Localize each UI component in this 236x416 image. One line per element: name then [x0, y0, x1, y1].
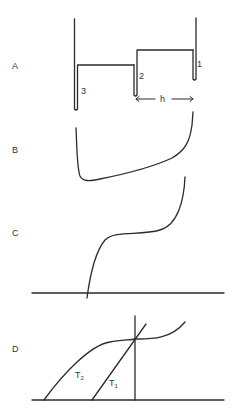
diagram-canvas: A 3 2 1 h B C D T2 T1 [0, 0, 236, 416]
panel-d-label: D [12, 344, 19, 354]
t1-label: T1 [109, 378, 119, 389]
panel-a-label: A [12, 61, 18, 71]
curve-c [87, 177, 185, 298]
panel-b: B [12, 112, 193, 181]
panel-d: D T2 T1 [12, 316, 224, 400]
tube-1-label: 1 [197, 59, 202, 69]
line-t1 [92, 324, 146, 400]
t2-label: T2 [75, 370, 85, 381]
tube-1 [193, 18, 196, 80]
tube-3-label: 3 [81, 86, 86, 96]
curve-b [76, 112, 193, 181]
tube-2-label: 2 [139, 71, 144, 81]
panel-a: A 3 2 1 h [12, 18, 202, 110]
tube-3 [75, 19, 135, 110]
panel-b-label: B [12, 145, 18, 155]
panel-c-label: C [12, 228, 19, 238]
distance-h-label: h [160, 94, 165, 104]
panel-c: C [12, 177, 224, 298]
